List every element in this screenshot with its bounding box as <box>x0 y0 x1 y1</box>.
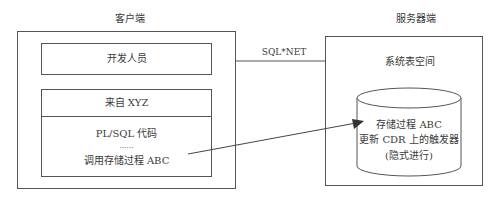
diagram-lines <box>0 0 497 198</box>
stored-procedure-label: 存储过程 ABC <box>359 116 459 131</box>
call-arrow-line <box>188 123 356 154</box>
trigger-label: 更新 CDR 上的触发器 <box>355 131 463 146</box>
implicit-label: (隐式进行) <box>359 147 459 162</box>
